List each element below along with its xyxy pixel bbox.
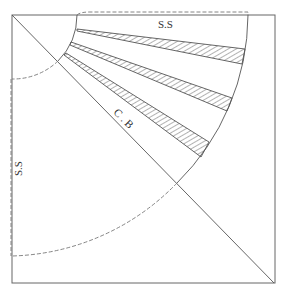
center-back-label: C . B	[112, 106, 137, 131]
waist-arc-dashed	[12, 61, 58, 79]
top-side-seam-label: S.S	[158, 18, 173, 30]
pattern-diagram: S.S S.S C . B	[0, 0, 283, 290]
left-side-seam-label: S.S	[12, 161, 24, 176]
hem-arc-dashed	[12, 183, 177, 256]
